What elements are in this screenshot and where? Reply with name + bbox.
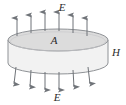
field-arrow-down [14, 67, 16, 84]
figure-canvas: E A H E [0, 0, 126, 105]
label-height-side: H [111, 46, 121, 58]
gaussian-pillbox-figure: E A H E [0, 0, 126, 105]
label-field-bottom: E [53, 91, 61, 103]
label-area-top-face: A [50, 34, 58, 46]
pillbox-cylinder [8, 29, 108, 74]
label-field-top: E [58, 1, 66, 13]
